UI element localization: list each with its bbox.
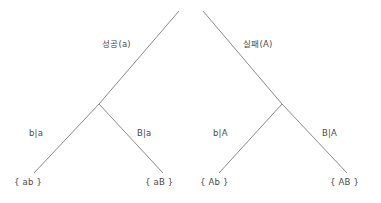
tree2-root-branch [203,11,282,104]
tree1-left-branch-label: b|a [29,129,43,138]
tree1-right-branch-label: B|a [137,129,152,138]
tree2-left-branch [219,104,282,173]
tree-branch-lines [0,0,381,203]
tree1-leaf-right-label: { aB } [145,178,173,187]
tree1-leaf-left-label: { ab } [14,178,42,187]
tree2-root-label: 실패(A) [243,40,272,49]
diagram-canvas: 성공(a) b|a B|a { ab } { aB } 실패(A) b|A B|… [0,0,381,203]
tree2-leaf-right-label: { AB } [330,178,359,187]
tree1-right-branch [99,104,163,173]
tree2-leaf-left-label: { Ab } [200,178,229,187]
tree2-right-branch-label: B|A [322,129,337,138]
tree1-left-branch [34,104,99,173]
tree1-root-branch [99,11,179,104]
tree1-root-label: 성공(a) [102,40,131,49]
tree2-left-branch-label: b|A [213,129,228,138]
tree2-right-branch [282,104,347,173]
